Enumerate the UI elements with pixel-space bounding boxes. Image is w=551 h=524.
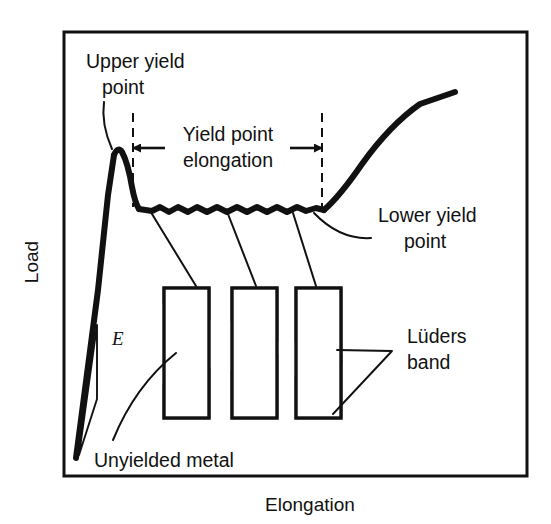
specimen-3-outline	[296, 288, 341, 418]
specimen-bar-1	[164, 288, 209, 418]
yield-point-elongation-label-line1: Yield point	[183, 123, 274, 145]
yield-point-elongation-label-line2: elongation	[183, 149, 273, 171]
modulus-label: E	[111, 328, 124, 349]
specimen-bar-2	[232, 288, 277, 418]
lower-yield-point-label-line1: Lower yield	[378, 204, 477, 226]
luders-band-label-line2: band	[407, 351, 450, 373]
luders-band-label-line1: Lüders	[407, 325, 467, 347]
specimen-bar-3	[296, 288, 341, 418]
upper-yield-point-label-line1: Upper yield	[86, 50, 185, 72]
specimen-1-outline	[164, 288, 209, 418]
upper-yield-point-label-line2: point	[102, 76, 145, 98]
figure-root: E Yield point elongation Upper yield poi…	[0, 0, 551, 524]
specimen-2-outline	[232, 288, 277, 418]
lower-yield-point-label-line2: point	[404, 230, 447, 252]
y-axis-label: Load	[21, 241, 42, 283]
load-elongation-diagram: E Yield point elongation Upper yield poi…	[0, 0, 551, 524]
x-axis-label: Elongation	[265, 494, 355, 515]
unyielded-metal-label: Unyielded metal	[94, 449, 234, 471]
